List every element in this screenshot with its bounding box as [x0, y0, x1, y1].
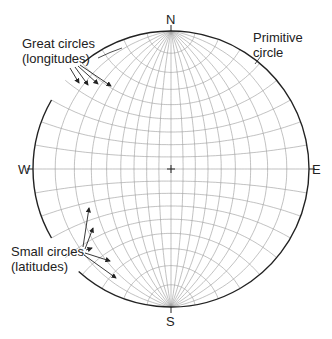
north-label: N — [166, 12, 175, 27]
small-circles-label: Small circles (latitudes) — [11, 244, 84, 274]
primitive-circle — [79, 272, 240, 307]
pointer-arrow — [86, 248, 92, 250]
primitive-circle-label: Primitive circle — [253, 30, 303, 60]
east-label: E — [312, 162, 321, 177]
west-label: W — [18, 162, 30, 177]
center-cross-icon — [167, 165, 175, 173]
great-circles-label: Great circles (longitudes) — [22, 36, 95, 66]
south-label: S — [166, 314, 175, 329]
